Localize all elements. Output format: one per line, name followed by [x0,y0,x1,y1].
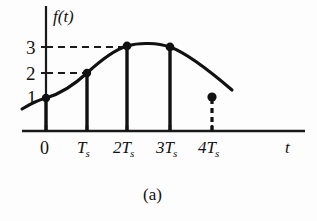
x-tick-label-4ts-base: 4T [198,138,216,157]
x-tick-label-ts-sub: s [85,147,89,159]
x-tick-label-3ts-sub: s [173,147,177,159]
x-tick-label-4ts-sub: s [215,147,219,159]
figure-container: 3 2 1 f(t) 0 Ts 2Ts 3Ts 4Ts t (a) [0,0,317,221]
x-tick-label-4ts: 4Ts [198,139,220,156]
sample-marker-1 [83,69,91,77]
x-tick-label-3ts: 3Ts [156,139,178,156]
x-axis-label: t [285,139,290,156]
sample-marker-4 [207,92,216,101]
sample-marker-0 [42,94,50,102]
x-tick-label-2ts-sub: s [130,147,134,159]
x-tick-label-2ts-base: 2T [113,138,131,157]
sample-marker-2 [123,42,132,51]
y-tick-label-1: 1 [27,88,37,107]
sample-marker-3 [166,43,175,52]
x-tick-label-2ts: 2Ts [113,139,135,156]
function-label: f(t) [53,8,74,25]
x-tick-label-ts: Ts [77,139,91,156]
figure-caption: (a) [143,186,162,203]
y-tick-label-2: 2 [26,64,36,83]
y-tick-label-3: 3 [26,38,36,57]
x-tick-label-0: 0 [40,139,49,157]
x-tick-label-3ts-base: 3T [156,138,174,157]
